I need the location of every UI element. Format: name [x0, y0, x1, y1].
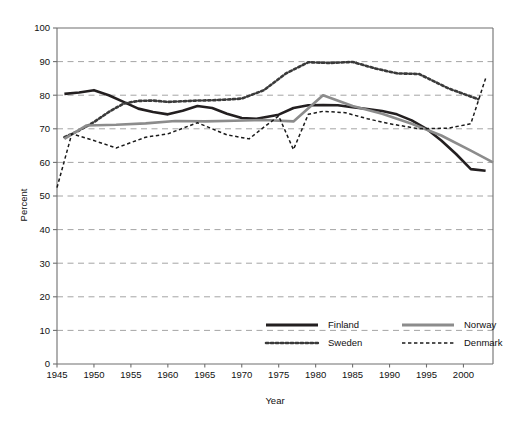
legend-label-finland: Finland	[328, 319, 359, 330]
x-tick-label-1985: 1985	[342, 369, 363, 380]
y-tick-label-50: 50	[39, 190, 50, 201]
y-tick-label-20: 20	[39, 291, 50, 302]
legend-label-denmark: Denmark	[464, 337, 503, 348]
y-tick-label-60: 60	[39, 157, 50, 168]
chart-background	[0, 0, 508, 432]
legend-label-sweden: Sweden	[328, 337, 362, 348]
x-tick-label-1995: 1995	[416, 369, 437, 380]
y-tick-label-30: 30	[39, 258, 50, 269]
x-tick-label-2000: 2000	[453, 369, 474, 380]
x-tick-label-1960: 1960	[157, 369, 178, 380]
x-axis-title: Year	[265, 395, 284, 406]
chart-container: 0102030405060708090100 19451950195519601…	[0, 0, 508, 432]
line-chart: 0102030405060708090100 19451950195519601…	[0, 0, 508, 432]
y-tick-label-10: 10	[39, 325, 50, 336]
x-tick-label-1965: 1965	[194, 369, 215, 380]
x-tick-label-1990: 1990	[379, 369, 400, 380]
x-tick-label-1970: 1970	[231, 369, 252, 380]
x-tick-label-1980: 1980	[305, 369, 326, 380]
y-tick-label-100: 100	[34, 22, 50, 33]
legend-label-norway: Norway	[464, 319, 496, 330]
x-tick-label-1945: 1945	[46, 369, 67, 380]
y-tick-label-70: 70	[39, 123, 50, 134]
y-tick-label-80: 80	[39, 90, 50, 101]
x-tick-label-1955: 1955	[120, 369, 141, 380]
y-tick-label-0: 0	[45, 358, 50, 369]
x-tick-label-1950: 1950	[83, 369, 104, 380]
y-tick-label-40: 40	[39, 224, 50, 235]
x-tick-label-1975: 1975	[268, 369, 289, 380]
y-axis-title: Percent	[18, 188, 29, 221]
y-tick-label-90: 90	[39, 56, 50, 67]
